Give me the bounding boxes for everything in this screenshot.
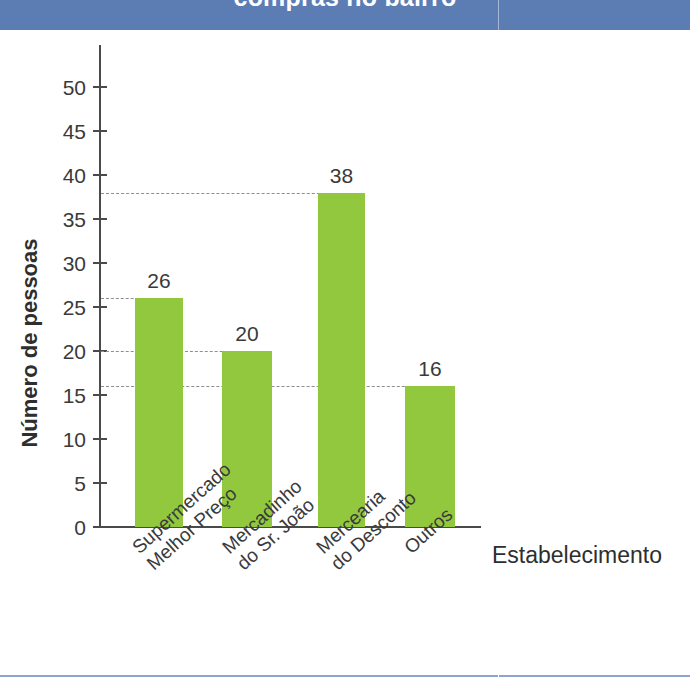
y-tick-mark <box>93 174 107 176</box>
y-tick-label: 20 <box>30 341 86 362</box>
chart-title: compras no bairro <box>0 0 690 12</box>
banner-seam-line <box>498 0 499 30</box>
bar[interactable] <box>318 193 365 527</box>
y-tick-mark <box>93 218 107 220</box>
y-tick-label: 15 <box>30 385 86 406</box>
y-tick-label: 40 <box>30 165 86 186</box>
bar-value-label: 38 <box>298 165 385 186</box>
y-tick-mark <box>93 130 107 132</box>
bar-value-label: 20 <box>202 323 292 344</box>
bottom-rule-seam <box>498 672 499 680</box>
chart-plot-area: Número de pessoas 05101520253035404550 2… <box>0 30 690 675</box>
title-banner: compras no bairro <box>0 0 690 30</box>
y-tick-label: 0 <box>30 517 86 538</box>
x-axis-title: Estabelecimento <box>492 542 662 569</box>
bar-value-label: 26 <box>115 270 203 291</box>
y-tick-mark <box>93 86 107 88</box>
y-tick-label: 30 <box>30 253 86 274</box>
bar-value-label: 16 <box>385 358 475 379</box>
y-tick-label: 5 <box>30 473 86 494</box>
y-tick-mark <box>93 438 107 440</box>
bottom-rule <box>0 675 690 677</box>
y-tick-label: 50 <box>30 77 86 98</box>
y-tick-label: 10 <box>30 429 86 450</box>
y-tick-mark <box>93 526 107 528</box>
y-tick-mark <box>93 394 107 396</box>
y-axis-line <box>99 45 101 528</box>
y-tick-label: 35 <box>30 209 86 230</box>
y-tick-label: 45 <box>30 121 86 142</box>
y-tick-mark <box>93 262 107 264</box>
y-tick-mark <box>93 306 107 308</box>
y-tick-label: 25 <box>30 297 86 318</box>
bar[interactable] <box>135 298 183 527</box>
y-tick-mark <box>93 482 107 484</box>
